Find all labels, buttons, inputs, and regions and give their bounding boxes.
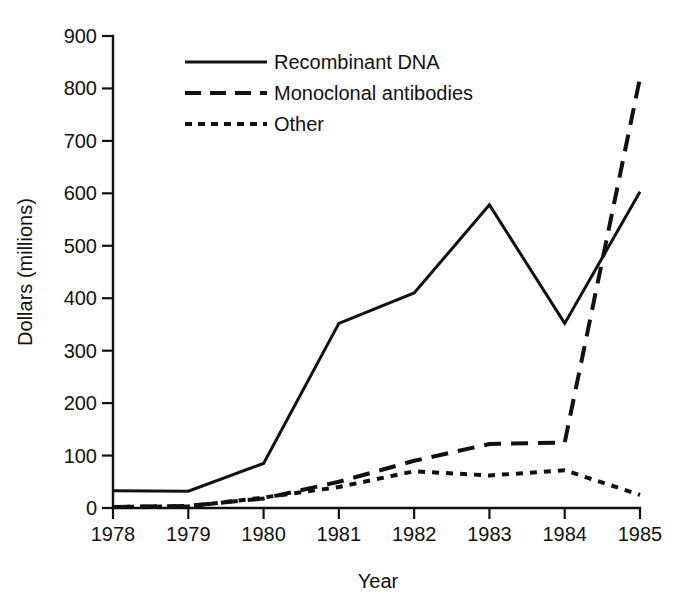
axes-spines bbox=[113, 36, 640, 508]
x-tick-label: 1983 bbox=[467, 523, 512, 545]
y-tick-label: 500 bbox=[64, 235, 97, 257]
y-tick-label: 900 bbox=[64, 25, 97, 47]
y-tick-label: 400 bbox=[64, 287, 97, 309]
x-axis-title: Year bbox=[358, 570, 399, 592]
legend-label-monoclonal-antibodies: Monoclonal antibodies bbox=[274, 82, 473, 104]
x-tick-label: 1980 bbox=[241, 523, 286, 545]
y-tick-label: 200 bbox=[64, 392, 97, 414]
y-tick-label: 0 bbox=[86, 497, 97, 519]
x-tick-label: 1984 bbox=[542, 523, 587, 545]
series-line-recombinant-dna bbox=[113, 192, 640, 491]
series-line-monoclonal-antibodies bbox=[113, 78, 640, 507]
y-axis-ticks: 0100200300400500600700800900 bbox=[64, 25, 113, 519]
x-tick-label: 1985 bbox=[618, 523, 663, 545]
x-tick-label: 1981 bbox=[317, 523, 362, 545]
x-tick-label: 1979 bbox=[166, 523, 211, 545]
legend-label-other: Other bbox=[274, 113, 324, 135]
chart-legend: Recombinant DNAMonoclonal antibodiesOthe… bbox=[185, 51, 473, 135]
x-tick-label: 1978 bbox=[91, 523, 136, 545]
chart-figure: 0100200300400500600700800900 19781979198… bbox=[0, 0, 691, 612]
y-tick-label: 800 bbox=[64, 77, 97, 99]
chart-canvas: 0100200300400500600700800900 19781979198… bbox=[0, 0, 691, 612]
legend-label-recombinant-dna: Recombinant DNA bbox=[274, 51, 440, 73]
x-axis-ticks: 19781979198019811982198319841985 bbox=[91, 508, 663, 545]
data-series-group bbox=[113, 78, 640, 507]
y-tick-label: 700 bbox=[64, 130, 97, 152]
y-axis-title: Dollars (millions) bbox=[14, 198, 36, 346]
x-tick-label: 1982 bbox=[392, 523, 437, 545]
y-tick-label: 600 bbox=[64, 182, 97, 204]
y-tick-label: 100 bbox=[64, 445, 97, 467]
y-tick-label: 300 bbox=[64, 340, 97, 362]
